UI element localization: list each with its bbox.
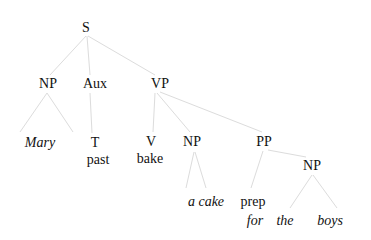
leaf-boys: boys: [317, 214, 343, 228]
node-np-pp: NP: [303, 159, 321, 173]
edge-pp-np: [268, 150, 306, 157]
leaf-past: past: [87, 153, 110, 167]
edge-vp-v: [153, 93, 155, 132]
leaf-mary: Mary: [25, 136, 55, 150]
edge-np-boys: [313, 175, 337, 208]
tree-edges: [0, 0, 371, 240]
edge-s-np: [50, 36, 86, 75]
node-np-object: NP: [183, 135, 201, 149]
node-t: T: [91, 136, 100, 150]
node-np-subject: NP: [39, 77, 57, 91]
edge-np-mary-left: [20, 93, 47, 132]
edge-aux-t: [90, 93, 92, 133]
node-s: S: [82, 21, 90, 35]
edge-np-acake-left: [186, 152, 194, 188]
leaf-bake: bake: [137, 152, 163, 166]
leaf-for: for: [247, 214, 263, 228]
edge-pp-prep: [251, 151, 263, 188]
node-aux: Aux: [83, 77, 107, 91]
edge-s-vp: [88, 36, 155, 75]
edge-vp-np: [157, 93, 190, 132]
leaf-a-cake: a cake: [188, 195, 224, 209]
edge-np-mary-right: [47, 93, 73, 132]
edge-np-the: [290, 175, 312, 208]
edge-s-aux: [87, 36, 90, 75]
node-prep: prep: [241, 195, 266, 209]
edge-np-acake-right: [195, 152, 206, 188]
edge-vp-pp: [160, 92, 262, 132]
node-v: V: [146, 135, 156, 149]
node-vp: VP: [151, 77, 169, 91]
node-pp: PP: [256, 135, 272, 149]
leaf-the: the: [276, 214, 293, 228]
